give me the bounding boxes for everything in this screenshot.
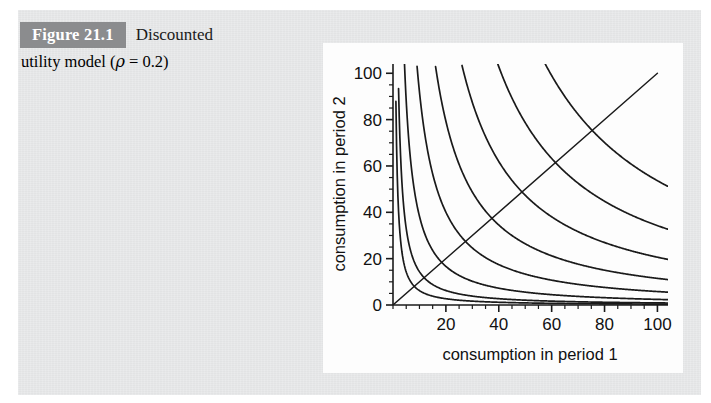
y-tick-label-0: 0 [373,296,382,315]
x-tick-label-80: 80 [595,315,614,334]
indifference-curve-7 [498,64,668,229]
x-tick-label-60: 60 [542,315,561,334]
rho-symbol: ρ [115,52,124,71]
y-axis-title: consumption in period 2 [330,96,348,271]
chart-card: 020406080100 20406080100 consumption in … [323,43,683,373]
y-tick-label-80: 80 [363,111,382,130]
x-tick-label-40: 40 [489,315,508,334]
forty-five-degree-line [393,73,657,305]
indifference-curves-chart: 020406080100 20406080100 consumption in … [323,43,683,373]
y-axis-tick-labels: 020406080100 [354,64,382,315]
figure-number-badge: Figure 21.1 [20,22,126,48]
y-tick-label-60: 60 [363,157,382,176]
x-axis-tick-labels: 20406080100 [436,315,671,334]
caption-text-part1: Discounted [136,26,213,44]
caption-rho-value: = 0.2) [125,52,169,71]
y-tick-label-100: 100 [354,64,382,83]
x-axis-title: consumption in period 1 [442,345,617,363]
caption-first-line: Figure 21.1 Discounted [20,22,320,48]
indifference-curves-group [393,64,668,305]
figure-screenshot: Figure 21.1 Discounted utility model (ρ … [0,0,711,403]
x-tick-label-20: 20 [436,315,455,334]
figure-caption: Figure 21.1 Discounted utility model (ρ … [20,22,320,72]
indifference-curve-6 [462,65,668,259]
x-axis-major-ticks [446,305,658,312]
caption-text-part2-prefix: utility model ( [21,52,115,71]
y-tick-label-20: 20 [363,250,382,269]
indifference-curve-4 [417,66,668,292]
x-tick-label-100: 100 [643,315,671,334]
caption-second-line: utility model (ρ = 0.2) [20,52,320,72]
y-tick-label-40: 40 [363,203,382,222]
indifference-curve-8 [545,64,667,186]
